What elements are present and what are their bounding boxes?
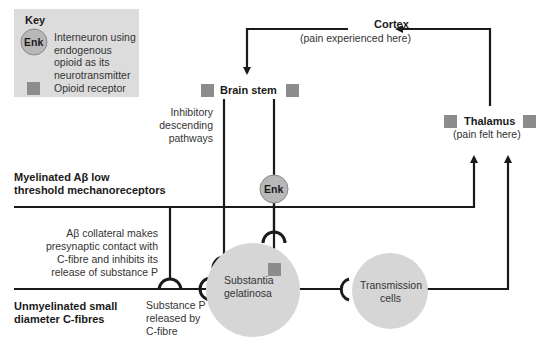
- thalamus-receptor-left: [444, 115, 457, 128]
- transmission-line-1: Transmission: [360, 279, 422, 292]
- substantia-line-1: Substantia: [224, 274, 274, 287]
- myelinated-line-2: threshold mechanoreceptors: [14, 184, 166, 197]
- brainstem-title: Brain stem: [220, 84, 277, 97]
- substantia-line-2: gelatinosa: [224, 287, 272, 300]
- substance-p-line-3: C-fibre: [146, 325, 178, 338]
- thalamus-title: Thalamus: [464, 115, 515, 128]
- unmyelinated-line-2: diameter C-fibres: [14, 313, 104, 326]
- transmission-line-2: cells: [380, 292, 401, 305]
- collateral-line-3: C-fibre and inhibits its: [20, 253, 158, 266]
- inhibitory-line-2: descending: [143, 119, 213, 132]
- myelinated-line-1: Myelinated Aβ low: [14, 171, 110, 184]
- thalamus-receptor-right: [523, 115, 536, 128]
- substance-p-line-1: Substance P: [146, 299, 206, 312]
- brainstem-receptor-left: [201, 84, 214, 97]
- collateral-line-1: Aβ collateral makes: [20, 227, 158, 240]
- inhibitory-line-1: Inhibitory: [143, 106, 213, 119]
- brainstem-receptor-right: [286, 84, 299, 97]
- substance-p-line-2: released by: [146, 312, 200, 325]
- thalamus-subtitle: (pain felt here): [453, 128, 521, 141]
- enk-label: Enk: [264, 183, 283, 196]
- cortex-title: Cortex: [374, 18, 409, 31]
- unmyelinated-line-1: Unmyelinated small: [14, 300, 117, 313]
- collateral-line-2: presynaptic contact with: [20, 240, 158, 253]
- inhibitory-line-3: pathways: [143, 132, 213, 145]
- collateral-line-4: release of substance P: [20, 266, 158, 279]
- cortex-subtitle: (pain experienced here): [300, 32, 455, 45]
